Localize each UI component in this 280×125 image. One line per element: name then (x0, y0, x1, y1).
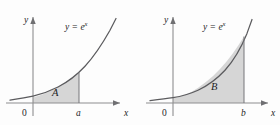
shaded-region-b (173, 37, 244, 104)
y-axis-label: y (163, 15, 169, 25)
region-label-b: B (211, 81, 218, 92)
x-axis-label: x (270, 108, 276, 118)
figure-pair: y x 0 a A y = ex y (0, 0, 280, 125)
origin-label: 0 (162, 108, 167, 118)
curve-equation-label: y = ex (64, 20, 88, 32)
curve-equation-label: y = ex (202, 20, 226, 32)
bound-label-a: a (76, 108, 81, 118)
exponential-area-chart-a: y x 0 a A y = ex (0, 0, 140, 125)
curve-equation-lhs: y = e (64, 22, 85, 32)
y-axis-arrow-icon (170, 17, 175, 24)
origin-label: 0 (22, 108, 27, 118)
curve-equation-exponent: x (84, 20, 88, 27)
exponential-area-chart-b: y x 0 b B y = ex (140, 0, 280, 125)
y-axis-label: y (23, 15, 29, 25)
region-label-a: A (51, 87, 59, 98)
bound-label-b: b (241, 108, 246, 118)
x-axis-arrow-icon (113, 100, 120, 105)
curve-equation-lhs: y = e (202, 22, 223, 32)
figure-panel-right: y x 0 b B y = ex (140, 0, 280, 125)
x-axis-arrow-icon (261, 100, 268, 105)
curve-equation-exponent: x (222, 20, 226, 27)
figure-panel-left: y x 0 a A y = ex (0, 0, 140, 125)
x-axis-label: x (123, 108, 129, 118)
y-axis-arrow-icon (30, 17, 35, 24)
